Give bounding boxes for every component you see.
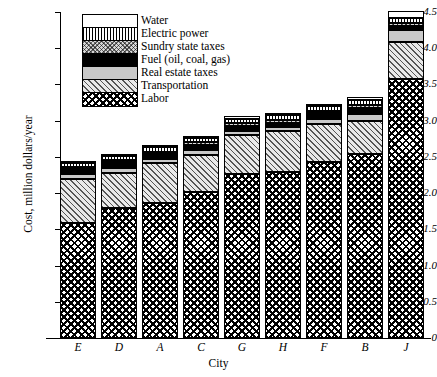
bar-segment — [224, 131, 260, 135]
bar-F[interactable] — [306, 104, 342, 338]
bar-J[interactable] — [388, 11, 424, 338]
chart-legend: WaterElectric powerSundry state taxesFue… — [82, 14, 230, 107]
bar-segment — [60, 163, 96, 167]
x-axis-label-B: B — [347, 341, 383, 353]
bar-segment — [306, 119, 342, 125]
legend-swatch — [83, 15, 137, 28]
bar-segment — [183, 142, 219, 144]
bar-segment — [142, 147, 178, 151]
bar-segment — [306, 111, 342, 114]
bar-segment — [306, 106, 342, 110]
bar-segment — [101, 162, 137, 168]
bar-segment — [306, 162, 342, 338]
y-axis-title: Cost, million dollars/year — [22, 84, 34, 264]
bar-segment — [142, 154, 178, 159]
bar-C[interactable] — [183, 136, 219, 338]
bar-segment — [101, 173, 137, 208]
bar-B[interactable] — [347, 97, 383, 338]
x-axis-label-E: E — [60, 341, 96, 353]
legend-swatch — [83, 54, 137, 67]
bar-segment — [388, 79, 424, 338]
bar-segment — [388, 23, 424, 26]
bar-segment — [224, 174, 260, 338]
bar-segment — [306, 113, 342, 118]
bar-segment — [183, 192, 219, 338]
bar-segment — [388, 30, 424, 42]
bar-H[interactable] — [265, 113, 301, 338]
bar-D[interactable] — [101, 155, 137, 338]
bar-E[interactable] — [60, 162, 96, 338]
legend-swatch — [83, 28, 137, 41]
bar-segment — [265, 172, 301, 338]
x-axis-label-J: J — [388, 341, 424, 353]
legend-swatch — [83, 80, 137, 93]
bar-G[interactable] — [224, 116, 260, 338]
bar-segment — [224, 119, 260, 123]
bar-segment — [101, 156, 137, 160]
bar-segment — [60, 179, 96, 223]
bar-segment — [142, 159, 178, 163]
stacked-bar-chart: 00.51.01.52.02.53.03.54.04.5 Cost, milli… — [0, 0, 437, 377]
bar-segment — [60, 167, 96, 169]
bar-segment — [224, 126, 260, 131]
bar-segment — [60, 223, 96, 338]
bar-segment — [183, 145, 219, 150]
bar-segment — [142, 203, 178, 338]
legend-label: Labor — [141, 92, 230, 105]
bar-segment — [183, 136, 219, 138]
legend-label: Real estate taxes — [141, 66, 230, 79]
x-axis-label-D: D — [101, 341, 137, 353]
legend-labels: WaterElectric powerSundry state taxesFue… — [141, 14, 230, 107]
x-axis-label-F: F — [306, 341, 342, 353]
x-axis-line — [46, 338, 431, 339]
x-axis-label-C: C — [183, 341, 219, 353]
legend-label: Transportation — [141, 79, 230, 92]
bar-segment — [142, 163, 178, 203]
bar-segment — [347, 154, 383, 338]
bar-segment — [347, 97, 383, 101]
x-axis-label-H: H — [265, 341, 301, 353]
y-axis-tick — [55, 338, 61, 339]
bar-segment — [306, 124, 342, 162]
legend-label: Electric power — [141, 27, 230, 40]
bar-segment — [60, 161, 96, 163]
bar-segment — [347, 100, 383, 104]
bar-segment — [265, 113, 301, 115]
bar-segment — [224, 135, 260, 174]
bar-segment — [183, 150, 219, 155]
bar-segment — [142, 145, 178, 147]
x-axis-label-A: A — [142, 341, 178, 353]
bar-segment — [347, 121, 383, 154]
bar-segment — [60, 169, 96, 174]
bar-segment — [388, 26, 424, 30]
legend-swatch — [83, 41, 137, 54]
bar-segment — [265, 115, 301, 120]
bar-segment — [347, 114, 383, 121]
bar-segment — [306, 104, 342, 106]
bar-segment — [101, 208, 137, 338]
legend-label: Sundry state taxes — [141, 40, 230, 53]
legend-swatch — [83, 93, 137, 106]
bar-A[interactable] — [142, 145, 178, 338]
bar-segment — [142, 152, 178, 154]
legend-label: Fuel (oil, coal, gas) — [141, 53, 230, 66]
bar-segment — [265, 123, 301, 127]
bar-segment — [183, 138, 219, 142]
x-axis-label-G: G — [224, 341, 260, 353]
bar-segment — [388, 42, 424, 79]
bar-segment — [101, 154, 137, 156]
bar-segment — [265, 127, 301, 131]
x-axis-title: City — [0, 357, 437, 369]
bar-segment — [101, 168, 137, 173]
bar-segment — [265, 131, 301, 172]
bar-segment — [60, 174, 96, 178]
bar-segment — [388, 11, 424, 18]
legend-swatch — [83, 67, 137, 80]
bar-segment — [265, 120, 301, 123]
bar-segment — [347, 105, 383, 108]
bar-segment — [388, 18, 424, 23]
bar-segment — [224, 116, 260, 118]
legend-swatches — [82, 14, 138, 107]
bar-segment — [347, 108, 383, 115]
bar-segment — [183, 155, 219, 193]
